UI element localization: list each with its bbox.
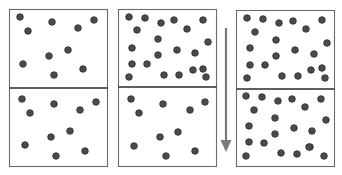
particle-dot	[155, 52, 162, 59]
particle-dot	[126, 14, 133, 21]
particle-dot	[272, 131, 279, 138]
panel-1	[10, 10, 108, 167]
particle-dot	[243, 153, 250, 160]
particle-dot	[27, 110, 34, 117]
particle-dot	[49, 19, 56, 26]
particle-dot	[20, 61, 27, 68]
particle-dot	[22, 142, 29, 149]
particle-dot	[190, 67, 197, 74]
particle-dot	[302, 104, 309, 111]
particle-dot	[205, 39, 212, 46]
particle-dot	[243, 93, 250, 100]
particle-dot	[246, 139, 253, 146]
particle-dot	[126, 74, 133, 81]
particle-dot	[202, 99, 209, 106]
particle-dot	[309, 128, 316, 135]
particle-dot	[319, 65, 326, 72]
particle-dot	[323, 117, 330, 124]
particle-dot	[17, 14, 24, 21]
particle-dot	[324, 40, 331, 47]
particle-dot	[272, 115, 279, 122]
particle-dot	[157, 134, 164, 141]
particle-dot	[136, 110, 143, 117]
particle-dot	[279, 73, 286, 80]
particle-dot	[200, 17, 207, 24]
particle-dot	[51, 72, 58, 79]
particle-dot	[321, 153, 328, 160]
particle-dot	[160, 101, 167, 108]
particle-dot	[142, 15, 149, 22]
particle-dot	[176, 72, 183, 79]
particle-dot	[203, 74, 210, 81]
particle-dot	[158, 20, 165, 27]
particle-dot	[244, 75, 251, 82]
particle-dot	[247, 62, 254, 69]
particle-dot	[51, 101, 58, 108]
particle-dot	[276, 20, 283, 27]
particle-dot	[294, 151, 301, 158]
particle-dot	[244, 15, 251, 22]
particle-dot	[192, 50, 199, 57]
particle-dot	[144, 61, 151, 68]
particle-dot	[184, 26, 191, 33]
particle-dot	[273, 53, 280, 60]
particle-dot	[318, 96, 325, 103]
particle-dot	[292, 47, 299, 54]
down-arrow-icon	[221, 28, 232, 152]
particle-dot	[161, 72, 168, 79]
particle-dot	[262, 62, 269, 69]
particle-dot	[259, 94, 266, 101]
particle-dot	[295, 73, 302, 80]
particle-dot	[82, 148, 89, 155]
arrow-head	[221, 140, 232, 152]
particle-dot	[163, 153, 170, 160]
particle-dot	[129, 61, 136, 68]
particle-dot	[308, 67, 315, 74]
particle-dot	[77, 107, 84, 114]
panel-3	[237, 11, 335, 167]
particle-dot	[311, 51, 318, 58]
particle-dot	[319, 17, 326, 24]
particle-dot	[134, 27, 141, 34]
particle-dot	[291, 125, 298, 132]
particle-dot	[75, 25, 82, 32]
particle-dot	[289, 96, 296, 103]
particle-dot	[155, 36, 162, 43]
particle-dot	[273, 37, 280, 44]
particle-dot	[187, 107, 194, 114]
particle-dot	[48, 134, 55, 141]
particle-diagram	[0, 0, 342, 175]
particle-dot	[251, 107, 258, 114]
particle-dot	[247, 45, 254, 52]
particle-dot	[260, 16, 267, 23]
particle-dot	[25, 28, 32, 35]
particle-dot	[246, 123, 253, 130]
particle-dot	[278, 150, 285, 157]
particle-dot	[275, 98, 282, 105]
particle-dot	[128, 96, 135, 103]
particle-dot	[19, 96, 26, 103]
particle-dot	[91, 17, 98, 24]
particle-dot	[174, 47, 181, 54]
particle-dot	[131, 143, 138, 150]
particle-dot	[46, 53, 53, 60]
particle-dot	[322, 75, 329, 82]
particle-dot	[261, 140, 268, 147]
particle-dot	[303, 26, 310, 33]
particle-dot	[200, 66, 207, 73]
particle-dot	[129, 45, 136, 52]
particle-dot	[192, 148, 199, 155]
panels-group	[10, 10, 335, 167]
particle-dot	[80, 66, 87, 73]
particle-dot	[175, 129, 182, 136]
particle-dot	[65, 47, 72, 54]
particle-dot	[171, 17, 178, 24]
panel-2	[119, 10, 217, 167]
particle-dot	[252, 29, 259, 36]
particle-dot	[53, 153, 60, 160]
particle-dot	[67, 128, 74, 135]
particle-dot	[306, 144, 313, 151]
particle-dot	[93, 99, 100, 106]
particle-dot	[290, 18, 297, 25]
